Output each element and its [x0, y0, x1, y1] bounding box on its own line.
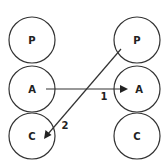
- left-parent-state: P: [9, 17, 55, 63]
- transaction-1: 1: [46, 85, 128, 102]
- transaction-2-label: 2: [62, 120, 69, 131]
- right-adult-label: A: [135, 84, 143, 95]
- right-parent-state: P: [114, 17, 160, 63]
- left-adult-label: A: [28, 84, 36, 95]
- right-child-label: C: [133, 131, 140, 142]
- transaction-1-arrowhead-icon: [120, 85, 128, 93]
- left-parent-label: P: [28, 35, 35, 46]
- transaction-2: 2: [44, 49, 121, 139]
- right-parent-label: P: [133, 35, 140, 46]
- left-person: P A C: [9, 17, 55, 159]
- right-child-state: C: [114, 113, 160, 159]
- transaction-1-label: 1: [101, 91, 108, 102]
- transaction-2-line: [48, 49, 121, 134]
- transaction-diagram: P A C P A C 1 2: [0, 0, 167, 163]
- left-child-label: C: [28, 131, 35, 142]
